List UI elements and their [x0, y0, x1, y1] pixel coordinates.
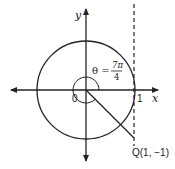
angle-denominator: 4	[114, 72, 119, 82]
angle-numerator: 7π	[112, 60, 123, 70]
terminal-ray	[86, 90, 134, 138]
y-axis-label: y	[74, 9, 82, 22]
point-q-label: Q(1, −1)	[132, 147, 169, 158]
x-axis-label: x	[152, 92, 159, 105]
origin-label: 0	[72, 93, 78, 104]
theta-label: θ =	[92, 65, 110, 76]
unit-circle-diagram: y x 0 1 θ = 7π 4 Q(1, −1)	[0, 0, 175, 169]
tick-label-1: 1	[137, 93, 143, 104]
